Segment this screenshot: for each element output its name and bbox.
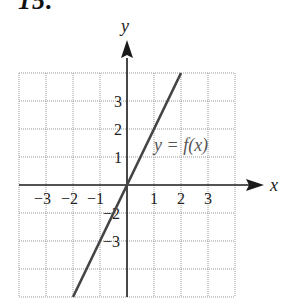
ytick-p1: 1 (114, 149, 122, 166)
ytick-m3: −3 (103, 233, 120, 250)
x-axis-label: x (269, 175, 278, 195)
xtick-p2: 2 (177, 190, 185, 207)
xtick-m1: −1 (87, 190, 104, 207)
xtick-m3: −3 (34, 190, 51, 207)
function-graph: y x −3 −2 −1 1 2 3 3 2 1 −2 −3 y = f(x) (0, 0, 291, 306)
y-axis-arrow-icon (121, 40, 133, 58)
xtick-p1: 1 (150, 190, 158, 207)
function-label: y = f(x) (152, 135, 208, 156)
xtick-m2: −2 (61, 190, 78, 207)
y-axis-label: y (119, 16, 129, 36)
axes (19, 58, 252, 297)
xtick-p3: 3 (204, 190, 212, 207)
ytick-p2: 2 (114, 121, 122, 138)
ytick-p3: 3 (114, 93, 122, 110)
